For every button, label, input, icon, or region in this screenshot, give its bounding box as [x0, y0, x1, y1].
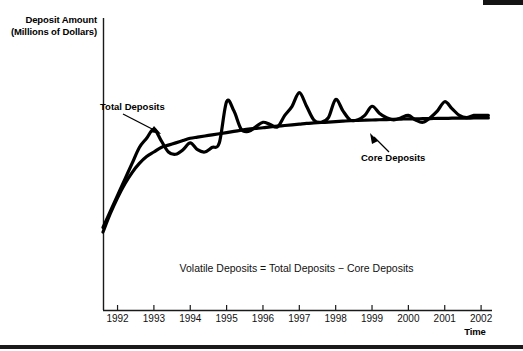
y-axis-title-line2: (Millions of Dollars) [0, 26, 97, 38]
x-axis-title: Time [440, 326, 510, 338]
y-axis-title: Deposit Amount (Millions of Dollars) [0, 14, 97, 38]
total-deposits-arrow [123, 114, 161, 134]
total-deposits-label: Total Deposits [100, 101, 165, 112]
chart-canvas [0, 0, 523, 351]
equation-note: Volatile Deposits = Total Deposits − Cor… [103, 262, 490, 274]
x-axis-ticks [118, 305, 482, 310]
x-tick-label-2002: 2002 [460, 313, 502, 324]
y-axis-title-line1: Deposit Amount [0, 14, 97, 26]
total-deposits-curve [103, 93, 488, 228]
core-deposits-curve [103, 118, 488, 232]
core-deposits-arrow [370, 133, 389, 152]
chart-figure: Deposit Amount (Millions of Dollars) Tim… [0, 0, 523, 351]
core-deposits-label: Core Deposits [361, 152, 425, 163]
